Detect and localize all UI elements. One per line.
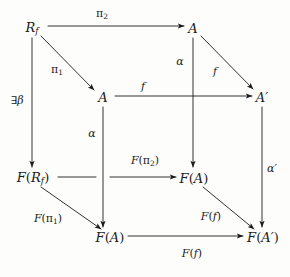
commutative-diagram: Rf A A A′ F(Rf) F(A) F(A) F(A′) π2 π1 ∃β… bbox=[0, 0, 290, 277]
node-A-middle: A bbox=[98, 91, 108, 104]
node-F-A-middle-right: F(A) bbox=[180, 172, 209, 185]
edge-label-alpha-middle: α bbox=[88, 128, 95, 139]
edge-label-alpha-top-right: α bbox=[176, 56, 183, 67]
node-A-prime: A′ bbox=[256, 91, 268, 104]
edge-label-F-pi2: F(π2) bbox=[131, 155, 159, 167]
edge-label-F-pi1: F(π1) bbox=[34, 213, 62, 225]
arrow-F-f-diagonal bbox=[203, 187, 254, 229]
edge-label-pi2: π2 bbox=[96, 8, 108, 20]
node-F-A-bottom-left: F(A) bbox=[96, 231, 125, 244]
node-F-A-prime: F(A′) bbox=[247, 231, 279, 244]
node-R-f: Rf bbox=[25, 21, 38, 36]
edge-label-F-f-bottom: F(f) bbox=[182, 248, 202, 259]
edge-label-F-f-diagonal: F(f) bbox=[201, 211, 221, 222]
edge-label-f-middle: f bbox=[141, 81, 145, 92]
edge-label-alpha-prime: α′ bbox=[267, 163, 277, 174]
edge-label-pi1: π1 bbox=[51, 64, 63, 76]
arrow-f-diagonal bbox=[201, 36, 253, 89]
node-F-R-f: F(Rf) bbox=[17, 171, 50, 186]
arrow-pi1 bbox=[41, 36, 94, 90]
edge-label-exists-beta: ∃β bbox=[11, 95, 24, 106]
edge-label-f-diagonal: f bbox=[213, 66, 217, 77]
node-A-top-right: A bbox=[188, 22, 198, 35]
